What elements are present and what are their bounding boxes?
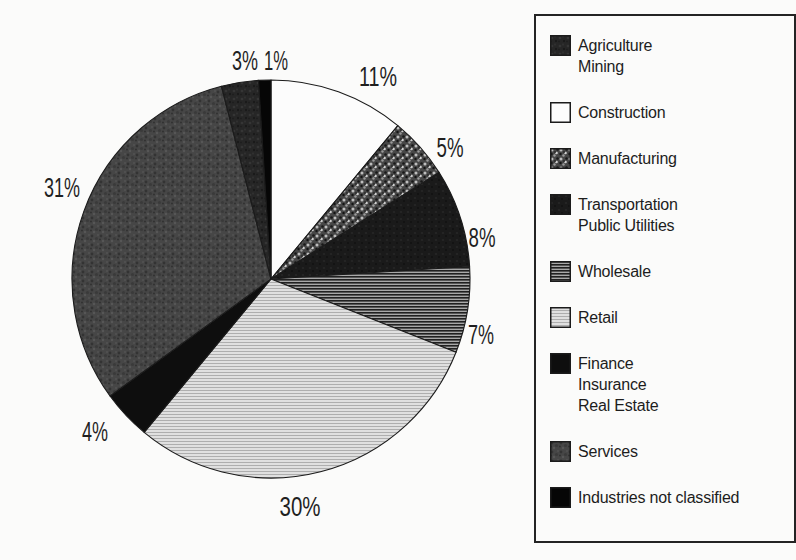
legend-label-finance: FinanceInsuranceReal Estate	[578, 353, 659, 416]
legend-label-transportation: TransportationPublic Utilities	[578, 194, 678, 236]
pct-label-manufacturing: 5%	[437, 133, 464, 163]
legend-item-retail: Retail	[550, 307, 794, 328]
industries-swatch-icon	[550, 487, 571, 508]
legend-item-finance: FinanceInsuranceReal Estate	[550, 353, 794, 416]
wholesale-swatch-icon	[550, 261, 571, 282]
pct-label-finance: 4%	[82, 417, 108, 447]
retail-swatch-icon	[550, 307, 571, 328]
legend-label-line: Real Estate	[578, 395, 659, 416]
construction-swatch-icon	[550, 102, 571, 123]
pct-label-industries: 1%	[264, 46, 288, 76]
legend-box: AgricultureMiningConstructionManufacturi…	[534, 14, 796, 543]
legend-label-line: Public Utilities	[578, 215, 678, 236]
pct-label-retail: 30%	[280, 492, 321, 522]
finance-swatch-icon	[550, 353, 571, 374]
services-swatch-icon	[550, 441, 571, 462]
legend-label-manufacturing: Manufacturing	[578, 148, 677, 169]
legend-label-line: Services	[578, 441, 638, 462]
legend-label-services: Services	[578, 441, 638, 462]
legend-item-agriculture: AgricultureMining	[550, 35, 794, 77]
legend-item-services: Services	[550, 441, 794, 462]
legend-label-agriculture: AgricultureMining	[578, 35, 652, 77]
legend-label-wholesale: Wholesale	[578, 261, 651, 282]
agriculture-swatch-icon	[550, 35, 571, 56]
pct-label-wholesale: 7%	[468, 320, 494, 350]
legend-label-construction: Construction	[578, 102, 665, 123]
transportation-swatch-icon	[550, 194, 571, 215]
legend-label-line: Mining	[578, 56, 652, 77]
pie-slices	[72, 80, 470, 478]
pct-label-construction: 11%	[359, 62, 397, 92]
legend-label-line: Transportation	[578, 194, 678, 215]
pct-label-services: 31%	[44, 173, 80, 203]
legend-item-industries: Industries not classified	[550, 487, 794, 508]
legend-item-transportation: TransportationPublic Utilities	[550, 194, 794, 236]
legend-label-industries: Industries not classified	[578, 487, 739, 508]
legend-label-line: Finance	[578, 353, 659, 374]
pie-chart: 11%5%8%7%30%4%31%3%1%	[0, 0, 530, 560]
legend-item-manufacturing: Manufacturing	[550, 148, 794, 169]
legend-label-line: Wholesale	[578, 261, 651, 282]
legend-label-line: Insurance	[578, 374, 659, 395]
pct-label-agriculture: 3%	[232, 46, 258, 76]
legend-label-retail: Retail	[578, 307, 618, 328]
legend-label-line: Manufacturing	[578, 148, 677, 169]
legend-label-line: Construction	[578, 102, 665, 123]
pct-label-transportation: 8%	[469, 223, 496, 253]
legend-label-line: Agriculture	[578, 35, 652, 56]
legend-label-line: Retail	[578, 307, 618, 328]
legend-label-line: Industries not classified	[578, 487, 739, 508]
manufacturing-swatch-icon	[550, 148, 571, 169]
legend-item-wholesale: Wholesale	[550, 261, 794, 282]
legend-item-construction: Construction	[550, 102, 794, 123]
